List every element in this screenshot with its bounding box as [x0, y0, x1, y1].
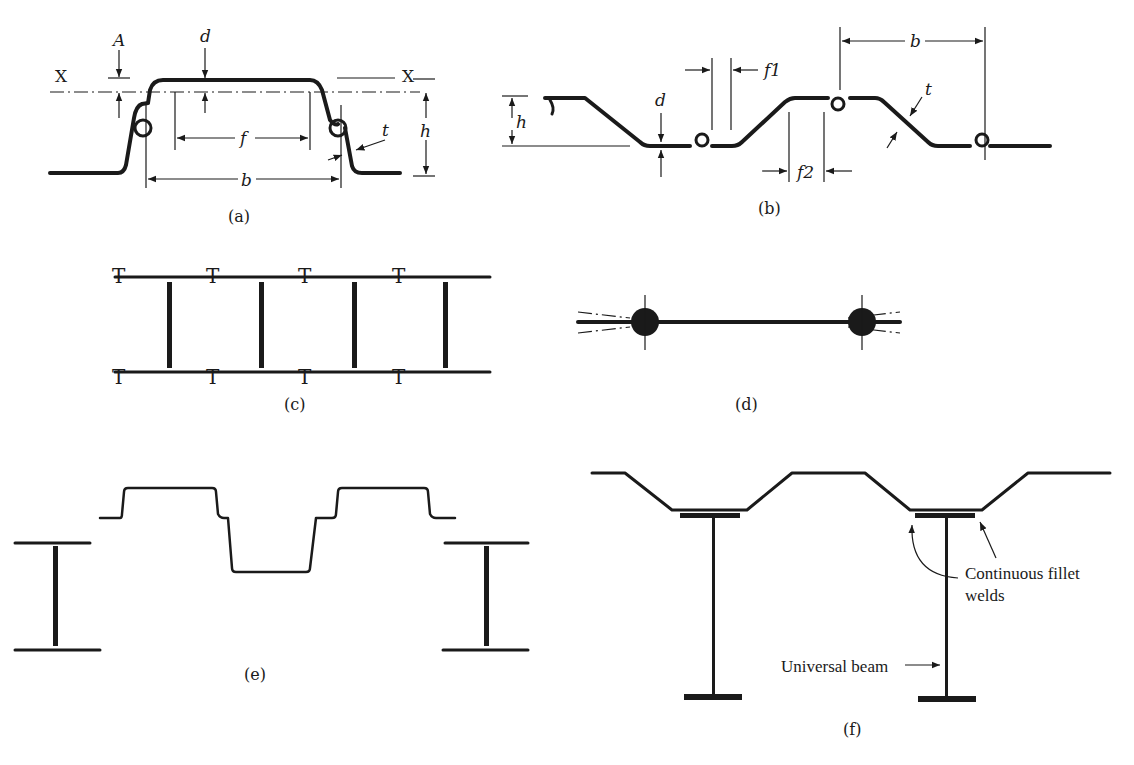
axis-label-x-right: X	[402, 66, 415, 86]
svg-text:T: T	[206, 264, 220, 288]
panel-f: Continuous fillet welds Universal beam (…	[592, 473, 1110, 739]
z-section-profile	[50, 80, 400, 173]
svg-text:T: T	[392, 264, 406, 288]
dim-label-f: f	[238, 128, 249, 148]
panel-e: (e)	[15, 488, 528, 684]
h-pile-left-web	[53, 546, 58, 646]
interlock-1	[696, 134, 708, 146]
beam-top-flange-left	[680, 513, 740, 518]
interlock-2	[832, 98, 844, 110]
weld-leader-right	[980, 522, 996, 558]
caption-d: (d)	[735, 395, 758, 414]
interlock-left	[135, 120, 151, 136]
caption-b: (b)	[758, 199, 781, 218]
dim-label-t-b: t	[925, 79, 932, 99]
weld-leader-left	[912, 525, 958, 578]
svg-text:T: T	[298, 264, 312, 288]
beam-bottom-flange-left	[684, 694, 742, 700]
beam-web-left	[712, 518, 715, 694]
dim-label-A: A	[111, 30, 125, 50]
panel-d: (d)	[578, 295, 900, 414]
dim-label-d-b: d	[655, 90, 666, 110]
dim-label-b-b: b	[910, 31, 921, 51]
box-pile-webs	[167, 282, 448, 368]
interlock-hook-left	[550, 100, 553, 114]
caption-f: (f)	[843, 720, 861, 739]
dim-label-t: t	[382, 120, 389, 140]
panel-c: T T T T T T T T (c)	[112, 264, 490, 414]
sheet-pile-sections-figure: A d X X f b t h (a)	[0, 0, 1134, 765]
panel-a: A d X X f b t h (a)	[50, 26, 435, 226]
u-section-profile	[545, 98, 1050, 146]
svg-text:T: T	[112, 365, 126, 389]
beam-web-right	[945, 518, 948, 696]
label-continuous-fillet-welds-line2: welds	[965, 586, 1005, 605]
dim-label-f2: f2	[795, 162, 814, 182]
caption-e: (e)	[244, 665, 266, 684]
dim-label-f1: f1	[762, 60, 781, 80]
svg-text:T: T	[392, 365, 406, 389]
h-pile-right-web	[484, 546, 489, 646]
dim-label-h-b: h	[516, 112, 527, 132]
label-universal-beam: Universal beam	[781, 657, 888, 676]
caption-a: (a)	[228, 207, 250, 226]
svg-text:T: T	[206, 365, 220, 389]
combined-wall-profile	[100, 488, 455, 572]
caption-c: (c)	[284, 395, 305, 414]
axis-label-x-left: X	[55, 66, 68, 86]
svg-text:T: T	[298, 365, 312, 389]
dim-label-b: b	[241, 170, 252, 190]
beam-bottom-flange-right	[918, 696, 976, 702]
corrugated-sheet-profile	[592, 473, 1110, 510]
svg-text:T: T	[112, 264, 126, 288]
label-continuous-fillet-welds-line1: Continuous fillet	[965, 564, 1080, 583]
dim-label-d: d	[200, 26, 211, 46]
interlock-3	[976, 134, 988, 146]
beam-top-flange-right	[915, 513, 975, 518]
dim-label-h: h	[420, 121, 431, 141]
panel-b: h d f1 f2 b t (b)	[502, 27, 1050, 218]
